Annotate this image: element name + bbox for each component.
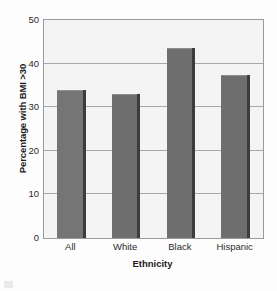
bar-right-shadow <box>247 75 250 239</box>
y-axis-tick-label: 20 <box>20 144 39 155</box>
y-axis-tick-labels: 50403020100 <box>20 0 39 291</box>
bar-group <box>208 20 263 238</box>
bar-group <box>44 20 99 238</box>
page-artifact <box>4 281 13 288</box>
bar-fill <box>221 75 249 239</box>
y-axis-tick-label: 50 <box>20 14 39 25</box>
x-axis-tick-label: White <box>98 241 153 252</box>
x-axis-tick-labels: AllWhiteBlackHispanic <box>43 241 262 257</box>
bar[interactable] <box>167 48 195 238</box>
bar-top-highlight <box>167 48 195 49</box>
bar-series <box>44 20 263 238</box>
y-axis-tick-label: 30 <box>20 101 39 112</box>
x-axis-tick-label: Black <box>153 241 208 252</box>
bar-fill <box>57 90 85 238</box>
bar[interactable] <box>221 75 249 239</box>
bar[interactable] <box>112 94 140 238</box>
plot-area <box>43 19 264 239</box>
bar-right-shadow <box>83 90 86 238</box>
bar-right-shadow <box>137 94 140 238</box>
bar-chart-figure: Percentage with BMI >30 50403020100 AllW… <box>0 0 277 291</box>
bar-right-shadow <box>192 48 195 238</box>
bar-fill <box>167 48 195 238</box>
bar-top-highlight <box>57 90 85 91</box>
bar[interactable] <box>57 90 85 238</box>
bar-top-highlight <box>112 94 140 95</box>
y-axis-tick-label: 40 <box>20 57 39 68</box>
bar-fill <box>112 94 140 238</box>
bar-group <box>154 20 209 238</box>
plot-inner <box>44 20 263 238</box>
y-axis-tick-label: 0 <box>20 232 39 243</box>
bar-top-highlight <box>221 75 249 76</box>
x-axis-tick-label: Hispanic <box>207 241 262 252</box>
x-axis-tick-label: All <box>43 241 98 252</box>
y-axis-tick-label: 10 <box>20 188 39 199</box>
bar-group <box>99 20 154 238</box>
x-axis-title: Ethnicity <box>43 258 262 269</box>
